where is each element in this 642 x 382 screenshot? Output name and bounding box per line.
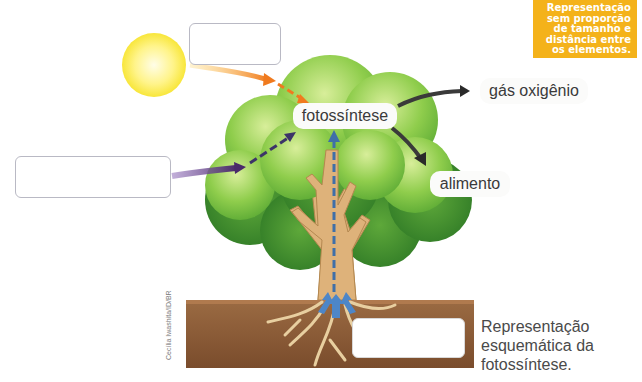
- note-line: de tamanho e: [533, 24, 631, 35]
- blank-box-light[interactable]: [189, 23, 281, 65]
- note-badge: Representação sem proporção de tamanho e…: [533, 0, 637, 58]
- oxygen-label: gás oxigênio: [480, 78, 588, 104]
- photosynthesis-label: fotossíntese: [293, 103, 397, 129]
- figure-caption: Representação esquemática da fotossíntes…: [481, 317, 594, 374]
- sun-icon: [122, 33, 186, 97]
- note-line: Representação: [533, 3, 631, 14]
- food-label: alimento: [430, 171, 510, 197]
- blank-box-air[interactable]: [15, 156, 171, 198]
- blank-box-soil[interactable]: [352, 318, 465, 358]
- caption-line: esquemática da: [481, 336, 594, 355]
- caption-line: fotossíntese.: [481, 355, 594, 374]
- image-credit: Cecília Iwashita/ID/BR: [165, 290, 172, 360]
- caption-line: Representação: [481, 317, 594, 336]
- light-arrow: [190, 65, 268, 80]
- note-line: os elementos.: [533, 45, 631, 56]
